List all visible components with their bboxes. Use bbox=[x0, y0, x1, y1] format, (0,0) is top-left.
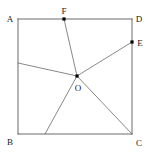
segment-OP bbox=[18, 63, 77, 76]
label-b: B bbox=[7, 137, 13, 147]
segment-OE bbox=[77, 42, 132, 76]
label-f: F bbox=[61, 6, 66, 16]
segment-OQ bbox=[45, 76, 77, 134]
label-e: E bbox=[137, 38, 143, 48]
point-dot-e bbox=[130, 40, 133, 43]
geometry-figure: ABCDEFO bbox=[0, 0, 152, 156]
point-dot-o bbox=[75, 74, 78, 77]
square-outline bbox=[18, 19, 132, 134]
label-a: A bbox=[7, 14, 14, 24]
label-o: O bbox=[75, 83, 82, 93]
point-dot-f bbox=[62, 17, 65, 20]
label-d: D bbox=[136, 14, 143, 24]
interior-segments bbox=[18, 19, 132, 134]
label-c: C bbox=[136, 138, 142, 148]
point-labels: ABCDEFO bbox=[7, 6, 144, 148]
figure-canvas: ABCDEFO bbox=[0, 0, 152, 156]
segment-OF bbox=[64, 19, 77, 76]
segment-OC bbox=[77, 76, 132, 134]
